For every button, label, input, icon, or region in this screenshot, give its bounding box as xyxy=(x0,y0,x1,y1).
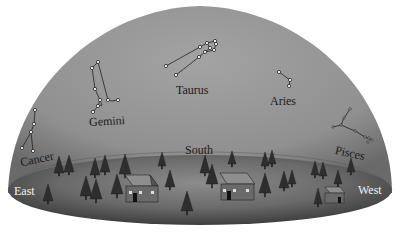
label-south: South xyxy=(185,144,213,156)
celestial-dome-diagram xyxy=(0,0,402,235)
label-aries: Aries xyxy=(270,95,296,107)
house-center xyxy=(220,173,255,200)
label-taurus: Taurus xyxy=(176,84,208,96)
label-gemini: Gemini xyxy=(89,114,126,128)
label-west: West xyxy=(358,184,382,196)
label-east: East xyxy=(14,185,35,197)
house-right xyxy=(325,187,345,203)
house-left xyxy=(125,175,158,202)
